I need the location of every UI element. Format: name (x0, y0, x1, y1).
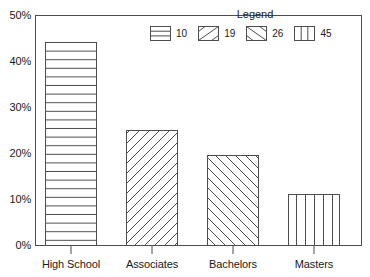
x-tick-label: Associates (126, 258, 178, 270)
legend-swatch-horizontal-lines-icon (150, 26, 171, 41)
legend-label: 45 (320, 28, 331, 39)
x-tick-label: High School (42, 258, 100, 270)
legend-item: 26 (246, 26, 283, 41)
legend-label: 19 (224, 28, 235, 39)
legend-item: 10 (150, 26, 187, 41)
x-tick-label: Masters (295, 258, 333, 270)
legend-label: 26 (272, 28, 283, 39)
bar-chart: 50% 40% 30% 20% 10% 0% (0, 0, 370, 277)
x-tick-label: Bachelors (209, 258, 257, 270)
bar-masters (289, 195, 340, 246)
legend-items: 10 19 26 (150, 26, 360, 41)
bar-bachelors (208, 156, 259, 246)
legend-item: 45 (294, 26, 331, 41)
legend-item: 19 (198, 26, 235, 41)
legend-swatch-forward-diagonal-icon (198, 26, 219, 41)
x-axis-ticks (71, 246, 314, 254)
legend-swatch-vertical-lines-icon (294, 26, 315, 41)
bar-series (46, 43, 340, 246)
bar-associates (127, 131, 178, 246)
bar-high-school (46, 43, 97, 246)
legend-swatch-backward-diagonal-icon (246, 26, 267, 41)
legend-label: 10 (176, 28, 187, 39)
legend: Legend 10 19 (150, 8, 360, 54)
legend-title: Legend (150, 8, 360, 20)
